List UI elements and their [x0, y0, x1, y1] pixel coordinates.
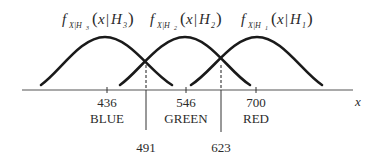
- svg-text:|: |: [285, 11, 288, 27]
- threshold-label-623: 623: [211, 140, 231, 155]
- svg-text:x: x: [276, 11, 284, 27]
- svg-text:X|H: X|H: [156, 21, 171, 30]
- svg-text:x: x: [185, 11, 193, 27]
- svg-text:1: 1: [265, 25, 268, 31]
- curve-label-h3: f X|H 3 ( x | H 3 ): [62, 9, 134, 31]
- svg-text:3: 3: [122, 21, 127, 30]
- svg-text:H: H: [289, 11, 302, 27]
- class-label-red: RED: [243, 111, 269, 126]
- svg-text:X|H: X|H: [247, 21, 262, 30]
- tick-label-436: 436: [97, 95, 117, 110]
- class-label-blue: BLUE: [90, 111, 124, 126]
- curve-label-h1: f X|H 1 ( x | H 1 ): [241, 9, 313, 31]
- svg-text:f: f: [150, 11, 156, 27]
- svg-text:x: x: [97, 11, 105, 27]
- svg-text:X|H: X|H: [68, 21, 83, 30]
- x-axis-label: x: [354, 94, 361, 109]
- svg-text:2: 2: [174, 25, 177, 31]
- svg-text:H: H: [110, 11, 123, 27]
- svg-text:): ): [128, 9, 134, 28]
- svg-text:f: f: [241, 11, 247, 27]
- tick-label-700: 700: [246, 95, 266, 110]
- svg-text:3: 3: [85, 25, 89, 31]
- curve-red-h1: [191, 37, 322, 85]
- svg-text:|: |: [106, 11, 109, 27]
- svg-text:): ): [307, 9, 313, 28]
- svg-text:|: |: [194, 11, 197, 27]
- svg-text:1: 1: [302, 21, 306, 30]
- svg-text:): ): [216, 9, 222, 28]
- density-diagram: f X|H 3 ( x | H 3 ) f X|H 2 ( x | H 2 ) …: [0, 0, 376, 161]
- svg-text:f: f: [62, 11, 68, 27]
- svg-text:H: H: [198, 11, 211, 27]
- class-label-green: GREEN: [164, 111, 208, 126]
- tick-label-546: 546: [176, 95, 196, 110]
- curve-label-h2: f X|H 2 ( x | H 2 ): [150, 9, 222, 31]
- svg-text:2: 2: [211, 21, 215, 30]
- threshold-label-491: 491: [136, 140, 156, 155]
- curve-green-h2: [120, 37, 250, 85]
- curve-blue-h3: [41, 37, 172, 85]
